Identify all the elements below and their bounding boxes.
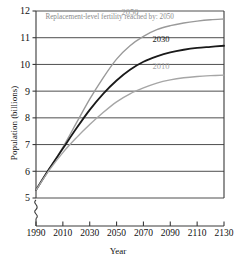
chart-canvas: 5678910111219902010203020502070209021102…: [0, 0, 236, 266]
series-label-2010: 2010: [152, 61, 169, 71]
x-tick-label-2110: 2110: [188, 228, 207, 238]
x-tick-label-2010: 2010: [53, 228, 72, 238]
x-tick-label-2030: 2030: [80, 228, 99, 238]
population-projection-chart: 5678910111219902010203020502070209021102…: [0, 0, 236, 266]
y-tick-label-9: 9: [25, 86, 30, 97]
x-tick-label-2130: 2130: [215, 228, 234, 238]
annotation-replacement-fertility-note: Replacement-level fertility reached by: …: [45, 13, 174, 21]
y-tick-label-5: 5: [25, 192, 30, 203]
y-axis-title: Population (billions): [9, 80, 19, 166]
x-tick-label-2090: 2090: [161, 228, 180, 238]
y-tick-label-8: 8: [25, 112, 30, 123]
series-line-2050: [36, 19, 224, 190]
y-tick-label-12: 12: [20, 5, 30, 16]
series-line-2010: [36, 75, 224, 190]
y-tick-label-6: 6: [25, 166, 30, 177]
y-tick-label-7: 7: [25, 139, 30, 150]
y-tick-label-10: 10: [20, 59, 30, 70]
x-tick-label-1990: 1990: [27, 228, 46, 238]
series-label-2030: 2030: [152, 34, 169, 44]
x-tick-label-2070: 2070: [134, 228, 153, 238]
x-axis-title: Year: [0, 246, 236, 256]
y-axis-break-symbol: [35, 200, 38, 219]
x-tick-label-2050: 2050: [107, 228, 126, 238]
y-tick-label-11: 11: [20, 32, 30, 43]
